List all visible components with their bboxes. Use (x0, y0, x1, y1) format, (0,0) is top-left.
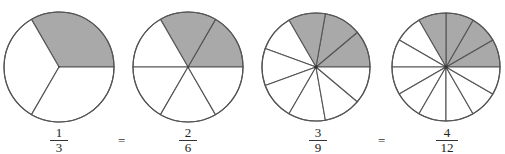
denominator: 12 (432, 141, 462, 154)
numerator: 3 (303, 126, 333, 139)
center-point (187, 66, 189, 68)
fraction-label-two-sixths: 2 6 (173, 126, 203, 154)
denominator: 3 (44, 141, 74, 154)
circle-three-ninths (262, 13, 370, 121)
denominator: 6 (173, 141, 203, 154)
fraction-label-three-ninths: 3 9 (303, 126, 333, 154)
circle-one-third (4, 12, 114, 122)
denominator: 9 (303, 141, 333, 154)
equals-sign: = (378, 134, 385, 147)
numerator: 2 (173, 126, 203, 139)
circle-two-sixths (133, 12, 243, 122)
center-point (58, 66, 60, 68)
numerator: 1 (44, 126, 74, 139)
equals-sign: = (118, 134, 125, 147)
fraction-circles-diagram (0, 0, 505, 154)
circle-four-twelfths (392, 13, 500, 121)
fraction-label-four-twelfths: 4 12 (432, 126, 462, 154)
center-point (314, 65, 318, 69)
center-point (444, 65, 448, 69)
fraction-label-one-third: 1 3 (44, 126, 74, 154)
numerator: 4 (432, 126, 462, 139)
